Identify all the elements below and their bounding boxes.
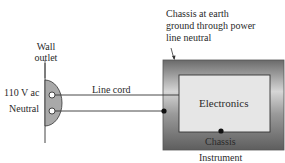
chassis-note-line3: line neutral — [166, 32, 255, 44]
hot-label: 110 V ac — [4, 87, 39, 98]
outlet-label-line2: outlet — [34, 52, 58, 63]
chassis-note-line1: Chassis at earth — [166, 8, 255, 20]
outlet-body — [45, 80, 62, 126]
line-cord-label: Line cord — [92, 84, 131, 95]
grounding-diagram: Wall outlet 110 V ac Neutral Line cord C… — [0, 0, 285, 163]
arrowhead — [172, 56, 176, 61]
electronics-label: Electronics — [199, 98, 248, 109]
chassis-note-line2: ground through power — [166, 20, 255, 32]
neutral-terminal — [49, 108, 55, 114]
chassis-neutral-junction — [161, 108, 166, 113]
wall-outlet-label: Wall outlet — [34, 41, 58, 63]
wall-label-line1: Wall — [34, 41, 58, 52]
neutral-label: Neutral — [9, 103, 39, 114]
chassis-note: Chassis at earth ground through power li… — [166, 8, 255, 44]
chassis-label: Chassis — [205, 136, 236, 147]
instrument-label: Instrument — [199, 152, 242, 163]
hot-terminal — [49, 92, 55, 98]
electronics-chassis-junction — [218, 128, 223, 133]
